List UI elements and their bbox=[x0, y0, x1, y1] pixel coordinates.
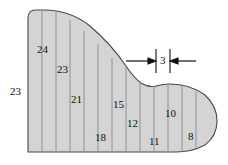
ordinate-label-5: 15 bbox=[113, 99, 124, 110]
ordinate-label-2: 23 bbox=[57, 64, 68, 75]
ordinate-label-4: 18 bbox=[95, 132, 106, 143]
dimension-arrowhead-right bbox=[170, 58, 178, 64]
ordinate-label-6: 12 bbox=[127, 118, 138, 129]
ordinate-label-3: 21 bbox=[71, 94, 82, 105]
spacing-dimension-label: 3 bbox=[160, 55, 166, 66]
ordinate-label-9: 8 bbox=[188, 131, 194, 142]
ordinate-label-1: 24 bbox=[37, 44, 48, 55]
ordinate-label-8: 10 bbox=[165, 108, 176, 119]
dimension-arrowhead-left bbox=[148, 58, 156, 64]
cross-section-figure: 23 24 23 21 18 15 12 11 10 8 3 bbox=[0, 0, 228, 165]
left-height-label: 23 bbox=[10, 86, 21, 97]
ordinate-label-7: 11 bbox=[149, 136, 160, 147]
